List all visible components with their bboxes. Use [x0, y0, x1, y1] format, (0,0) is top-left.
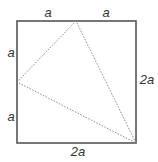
label-right: 2a [139, 72, 154, 87]
dotted-triangle [17, 21, 136, 143]
label-left-lower: a [7, 109, 14, 124]
label-top-left: a [44, 5, 51, 20]
label-top-right: a [102, 5, 109, 20]
label-bottom: 2a [70, 144, 85, 159]
square [17, 21, 136, 143]
label-left-upper: a [7, 45, 14, 60]
geometry-diagram: a a a a 2a 2a [0, 0, 158, 162]
